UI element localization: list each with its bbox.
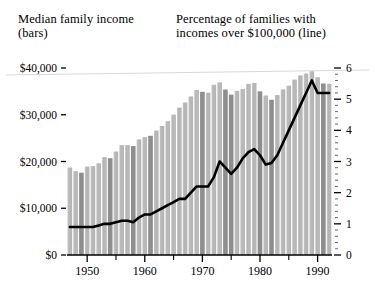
bar xyxy=(79,173,84,255)
right-tick-label: 2 xyxy=(346,187,352,199)
bar-texture xyxy=(295,80,296,255)
bar-texture xyxy=(174,115,175,255)
bar-texture xyxy=(299,75,300,255)
bar xyxy=(148,136,153,255)
bar-texture xyxy=(250,84,251,255)
bar-texture xyxy=(126,145,127,255)
bar-texture xyxy=(236,91,237,255)
bar-texture xyxy=(70,168,71,255)
bar-texture xyxy=(104,157,105,255)
bar-texture xyxy=(144,137,145,255)
bar-texture xyxy=(146,137,147,255)
bar-texture xyxy=(69,168,70,255)
bar-texture xyxy=(121,145,122,255)
bar-texture xyxy=(277,95,278,255)
bar-texture xyxy=(307,74,308,255)
right-tick-label: 5 xyxy=(346,93,352,105)
bar-texture xyxy=(138,140,139,255)
bar-texture xyxy=(76,171,77,255)
bar-texture xyxy=(77,171,78,255)
bar-texture xyxy=(255,83,256,255)
bar-texture xyxy=(288,86,289,255)
bar-texture xyxy=(88,167,89,255)
bar-texture xyxy=(278,95,279,255)
bar-texture xyxy=(195,90,196,255)
bar-texture xyxy=(92,166,93,255)
axes-layer xyxy=(6,70,369,255)
bar-texture xyxy=(156,131,157,255)
bar-texture xyxy=(186,103,187,255)
bar-texture xyxy=(169,121,170,255)
bar-texture xyxy=(129,145,130,255)
bar-texture xyxy=(184,103,185,255)
bar-texture xyxy=(93,166,94,255)
x-tick-label: 1970 xyxy=(190,264,214,278)
bar-texture xyxy=(86,167,87,255)
left-tick-label: $40,000 xyxy=(20,62,58,75)
bar-texture xyxy=(100,163,101,255)
bar-texture xyxy=(172,115,173,255)
bar-texture xyxy=(290,86,291,255)
bar-texture xyxy=(238,91,239,255)
bar-texture xyxy=(192,97,193,255)
bars-layer xyxy=(68,71,332,255)
bar-texture xyxy=(242,89,243,255)
x-tick-label: 1950 xyxy=(75,264,99,278)
bar-texture xyxy=(253,83,254,255)
bar-texture xyxy=(145,137,146,255)
bar-texture xyxy=(243,89,244,255)
bar-texture xyxy=(163,126,164,255)
left-tick-label: $30,000 xyxy=(20,109,58,122)
bar-texture xyxy=(140,140,141,255)
bar-texture xyxy=(306,74,307,255)
bar-texture xyxy=(276,95,277,255)
x-axis-ticks: 19501960197019801990 xyxy=(75,255,329,278)
bar-texture xyxy=(237,91,238,255)
bar xyxy=(258,91,263,255)
bar-texture xyxy=(155,131,156,255)
bar-texture xyxy=(94,166,95,255)
bar-texture xyxy=(122,145,123,255)
x-tick-label: 1980 xyxy=(248,264,272,278)
bar-texture xyxy=(266,96,267,255)
right-tick-label: 0 xyxy=(346,249,352,261)
bar xyxy=(108,158,113,255)
bar-texture xyxy=(209,93,210,255)
bar-texture xyxy=(244,89,245,255)
decorative-rule xyxy=(6,70,369,75)
bar-texture xyxy=(214,85,215,255)
bar-texture xyxy=(74,171,75,255)
bar-texture xyxy=(328,84,329,255)
bar xyxy=(200,92,205,255)
bar-texture xyxy=(330,84,331,255)
bar-texture xyxy=(329,84,330,255)
left-tick-label: $20,000 xyxy=(20,156,58,169)
bar-texture xyxy=(293,80,294,255)
bar-texture xyxy=(220,82,221,255)
bar-texture xyxy=(98,163,99,255)
bar-texture xyxy=(180,108,181,255)
chart-plot-area: $0$10,000$20,000$30,000$40,000 0123456 1… xyxy=(0,0,375,287)
left-tick-label: $10,000 xyxy=(20,202,58,215)
bar-texture xyxy=(191,97,192,255)
bar-texture xyxy=(221,82,222,255)
bar-texture xyxy=(282,90,283,256)
bar-texture xyxy=(157,131,158,255)
x-tick-label: 1990 xyxy=(306,264,330,278)
bar-texture xyxy=(117,152,118,255)
bar-texture xyxy=(311,71,312,255)
bar-texture xyxy=(99,163,100,255)
bar-texture xyxy=(283,90,284,256)
bar-texture xyxy=(247,84,248,255)
bar-texture xyxy=(219,82,220,255)
bar-texture xyxy=(178,108,179,255)
bar-texture xyxy=(71,168,72,255)
bar-texture xyxy=(198,90,199,255)
bar-texture xyxy=(318,77,319,255)
bar-texture xyxy=(213,85,214,255)
bar-texture xyxy=(316,77,317,255)
bar-texture xyxy=(139,140,140,255)
left-axis-ticks: $0$10,000$20,000$30,000$40,000 xyxy=(20,62,66,261)
x-tick-label: 1960 xyxy=(133,264,157,278)
bar-texture xyxy=(106,157,107,255)
